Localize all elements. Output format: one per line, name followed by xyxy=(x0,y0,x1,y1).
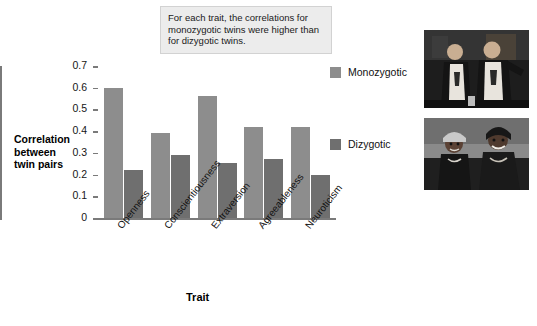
legend-item-monozygotic: Monozygotic xyxy=(330,66,407,78)
bar-monozygotic-neuroticism xyxy=(291,127,310,218)
bar-monozygotic-conscientiousness xyxy=(151,133,170,218)
y-axis-tick-label: 0.6 xyxy=(57,81,87,93)
y-axis-tick-label: 0 xyxy=(57,211,87,223)
chart-figure: For each trait, the correlations for mon… xyxy=(0,0,537,326)
caption-box: For each trait, the correlations for mon… xyxy=(160,6,332,54)
monozygotic-twins-photo xyxy=(424,30,529,108)
caption-text: For each trait, the correlations for mon… xyxy=(168,12,319,46)
x-axis-title: Trait xyxy=(186,291,209,303)
y-axis-tick-label: 0.3 xyxy=(57,146,87,158)
y-axis-tick-label: 0.5 xyxy=(57,102,87,114)
dizygotic-twins-photo-art xyxy=(424,118,529,190)
y-axis-tick-label: 0.1 xyxy=(57,189,87,201)
legend-item-dizygotic: Dizygotic xyxy=(330,138,391,150)
plot-area xyxy=(98,66,332,218)
y-axis-line xyxy=(0,66,2,220)
y-axis-tick xyxy=(93,218,98,220)
y-axis-tick-label: 0.7 xyxy=(57,59,87,71)
y-axis-tick-label: 0.4 xyxy=(57,124,87,136)
legend-swatch-monozygotic xyxy=(330,67,341,78)
dizygotic-twins-photo xyxy=(424,118,529,190)
bar-monozygotic-agreeableness xyxy=(244,127,263,218)
legend-swatch-dizygotic xyxy=(330,139,341,150)
legend-label-monozygotic: Monozygotic xyxy=(348,66,407,78)
y-axis-tick-label: 0.2 xyxy=(57,168,87,180)
monozygotic-twins-photo-art xyxy=(424,30,529,108)
bar-monozygotic-openness xyxy=(104,88,123,218)
legend-label-dizygotic: Dizygotic xyxy=(348,138,391,150)
